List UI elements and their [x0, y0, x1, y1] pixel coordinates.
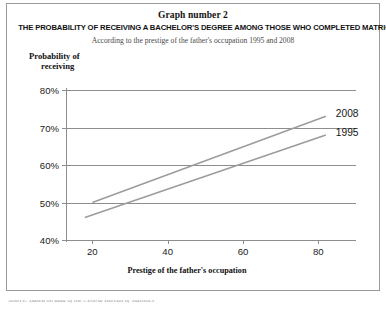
x-tick-label: 80: [313, 246, 324, 257]
y-tick-mark: [62, 240, 66, 241]
series-label-1995: 1995: [336, 127, 359, 138]
y-tick-label: 40%: [40, 235, 59, 246]
gridline-40pct: [66, 240, 356, 241]
source-caption: Source: Based on data of the Central Bur…: [8, 300, 154, 303]
x-tick-label: 60: [238, 246, 249, 257]
y-axis-title-line1: Probability of: [29, 51, 80, 61]
chart-main-title: THE PROBABILITY OF RECEIVING A BACHELOR'…: [18, 23, 370, 32]
y-tick-label: 60%: [40, 160, 59, 171]
series-label-2008: 2008: [336, 108, 359, 119]
y-axis-title-line2: receiving: [29, 61, 80, 71]
x-tick-mark: [92, 240, 93, 244]
y-tick-label: 50%: [40, 197, 59, 208]
y-tick-label: 80%: [40, 85, 59, 96]
x-tick-label: 40: [162, 246, 173, 257]
line-series-1995: [85, 135, 326, 218]
chart-subtitle: According to the prestige of the father'…: [7, 36, 379, 45]
source-caption-clip: Source: Based on data of the Central Bur…: [8, 300, 188, 310]
x-tick-mark: [168, 240, 169, 244]
y-axis-title: Probability of receiving: [29, 51, 80, 71]
x-tick-mark: [243, 240, 244, 244]
graph-number-heading: Graph number 2: [7, 10, 379, 20]
line-series-2008: [92, 116, 326, 202]
y-tick-label: 70%: [40, 122, 59, 133]
plot-area: 40%50%60%70%80% 20406080 2008 1995: [66, 90, 356, 240]
x-axis-title: Prestige of the father's occupation: [66, 266, 308, 275]
x-tick-label: 20: [87, 246, 98, 257]
series-lines-svg: [66, 90, 356, 240]
chart-figure-frame: Graph number 2 THE PROBABILITY OF RECEIV…: [6, 3, 380, 291]
x-tick-mark: [318, 240, 319, 244]
